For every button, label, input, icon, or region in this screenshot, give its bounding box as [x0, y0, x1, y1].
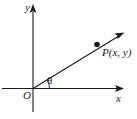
angle-theta-label: θ [47, 75, 52, 86]
origin-label: O [23, 90, 31, 101]
point-p-label: P(x, y) [102, 47, 131, 58]
filled-dot-icon [94, 42, 100, 48]
coordinate-diagram: y x O θ P(x, y) [0, 0, 137, 119]
x-axis-label: x [116, 93, 121, 104]
arrow-up-icon [30, 4, 37, 13]
terminal-ray-line [33, 37, 118, 89]
y-axis-label: y [25, 2, 30, 13]
